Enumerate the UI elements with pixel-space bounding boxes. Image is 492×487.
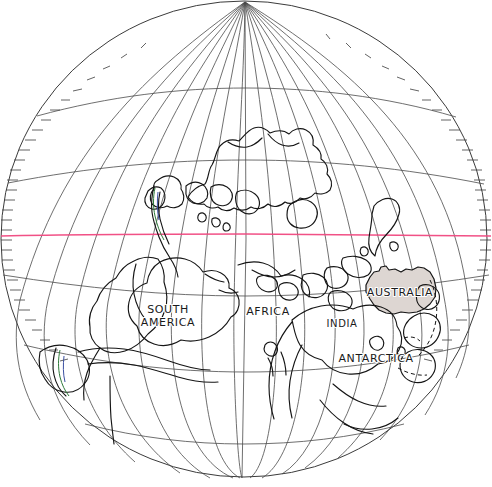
label-antarctica: ANTARCTICA	[338, 352, 413, 365]
label-south-america-line1: SOUTH	[147, 303, 189, 316]
globe-map-figure: SOUTH AMERICA AFRICA INDIA AUSTRALIA ANT…	[0, 0, 492, 487]
globe-svg: SOUTH AMERICA AFRICA INDIA AUSTRALIA ANT…	[0, 0, 492, 487]
label-australia: AUSTRALIA	[367, 286, 433, 299]
label-south-america-line2: AMERICA	[141, 316, 195, 329]
label-india: INDIA	[327, 318, 358, 329]
label-africa: AFRICA	[246, 305, 290, 318]
